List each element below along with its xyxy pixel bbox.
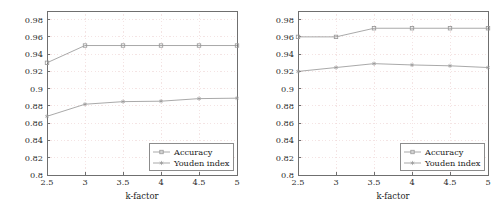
- ytick-label: 0.96: [276, 32, 294, 42]
- ytick-labels-left: 0.80.820.840.860.880.90.920.940.960.98: [25, 15, 43, 180]
- xaxis-title-left: k-factor: [126, 191, 159, 201]
- xtick-label: 3: [82, 177, 87, 187]
- ytick-label: 0.82: [25, 153, 43, 163]
- xtick-label: 4: [158, 177, 163, 187]
- xaxis-title-right: k-factor: [377, 191, 410, 201]
- legend-left: AccuracyYouden index: [149, 143, 233, 170]
- chart-panel-left: 0.80.820.840.860.880.90.920.940.960.98 2…: [0, 0, 252, 208]
- ytick-label: 0.9: [281, 84, 294, 94]
- ytick-label: 0.88: [25, 101, 43, 111]
- ytick-label: 0.9: [30, 84, 43, 94]
- chart-right-svg: 0.80.820.840.860.880.90.920.940.960.98 2…: [251, 0, 503, 208]
- ytick-label: 0.98: [276, 15, 294, 25]
- ytick-label: 0.94: [276, 49, 294, 59]
- legend-label-youden-index: Youden index: [173, 158, 230, 168]
- figure-root: 0.80.820.840.860.880.90.920.940.960.98 2…: [0, 0, 503, 208]
- series-plot-left: [45, 44, 239, 119]
- series-line-accuracy: [47, 46, 237, 63]
- xtick-label: 3: [333, 177, 338, 187]
- xtick-label: 4.5: [443, 177, 456, 187]
- legend-label-youden-index: Youden index: [424, 158, 481, 168]
- ytick-label: 0.86: [25, 118, 43, 128]
- xtick-label: 5: [234, 177, 239, 187]
- xtick-label: 2.5: [291, 177, 304, 187]
- ytick-labels-right: 0.80.820.840.860.880.90.920.940.960.98: [276, 15, 294, 180]
- series-line-youden-index: [47, 98, 237, 116]
- ytick-label: 0.84: [25, 135, 43, 145]
- xtick-label: 3.5: [367, 177, 380, 187]
- chart-left-svg: 0.80.820.840.860.880.90.920.940.960.98 2…: [0, 0, 252, 208]
- ytick-label: 0.92: [276, 66, 294, 76]
- chart-panel-right: 0.80.820.840.860.880.90.920.940.960.98 2…: [251, 0, 503, 208]
- xtick-label: 4.5: [192, 177, 205, 187]
- ytick-label: 0.86: [276, 118, 294, 128]
- ytick-label: 0.92: [25, 66, 43, 76]
- xtick-label: 3.5: [116, 177, 129, 187]
- series-line-youden-index: [298, 64, 488, 72]
- ytick-label: 0.88: [276, 101, 294, 111]
- ytick-label: 0.82: [276, 153, 294, 163]
- series-line-accuracy: [298, 28, 488, 37]
- ytick-label: 0.96: [25, 32, 43, 42]
- ytick-label: 0.98: [25, 15, 43, 25]
- legend-label-accuracy: Accuracy: [424, 147, 464, 157]
- ytick-label: 0.94: [25, 49, 43, 59]
- ytick-label: 0.84: [276, 135, 294, 145]
- xtick-labels-left: 2.533.544.55: [40, 177, 239, 187]
- xtick-label: 2.5: [40, 177, 53, 187]
- series-plot-right: [296, 27, 490, 74]
- legend-label-accuracy: Accuracy: [173, 147, 213, 157]
- xtick-label: 4: [409, 177, 414, 187]
- xtick-labels-right: 2.533.544.55: [291, 177, 490, 187]
- xtick-label: 5: [485, 177, 490, 187]
- legend-right: AccuracyYouden index: [400, 143, 484, 170]
